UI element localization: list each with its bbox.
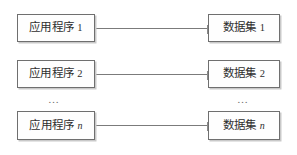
application-node-1-label: 应用程序1 — [29, 22, 83, 34]
application-node-2: 应用程序2 — [17, 60, 95, 88]
dataset-node-n-index: n — [260, 120, 265, 131]
application-node-1-name: 应用程序 — [29, 21, 74, 33]
application-node-n-index: n — [77, 120, 82, 131]
dataset-node-1: 数据集1 — [208, 14, 280, 42]
ellipsis-left: … — [48, 94, 60, 105]
connector-line-row-2 — [95, 74, 208, 75]
application-node-1: 应用程序1 — [17, 14, 95, 42]
dataset-node-n-label: 数据集n — [223, 120, 265, 132]
application-node-n-label: 应用程序n — [29, 120, 83, 132]
dataset-node-2-label: 数据集2 — [223, 68, 265, 80]
dataset-node-1-label: 数据集1 — [223, 22, 265, 34]
connector-line-row-1 — [95, 28, 208, 29]
dataset-node-n-name: 数据集 — [223, 119, 257, 131]
dataset-node-2-name: 数据集 — [223, 67, 257, 79]
connector-line-row-3 — [95, 125, 208, 126]
application-node-1-index: 1 — [77, 22, 83, 33]
ellipsis-right: … — [237, 94, 249, 105]
application-node-2-index: 2 — [77, 68, 83, 79]
application-node-2-name: 应用程序 — [29, 67, 74, 79]
diagram-canvas: 应用程序1 数据集1 应用程序2 数据集2 … … 应用程序n 数据集n — [0, 0, 297, 155]
dataset-node-n: 数据集n — [208, 111, 280, 140]
dataset-node-2: 数据集2 — [208, 60, 280, 88]
dataset-node-1-index: 1 — [260, 22, 266, 33]
application-node-n-name: 应用程序 — [29, 119, 74, 131]
application-node-2-label: 应用程序2 — [29, 68, 83, 80]
application-node-n: 应用程序n — [17, 111, 95, 140]
dataset-node-2-index: 2 — [260, 68, 266, 79]
dataset-node-1-name: 数据集 — [223, 21, 257, 33]
